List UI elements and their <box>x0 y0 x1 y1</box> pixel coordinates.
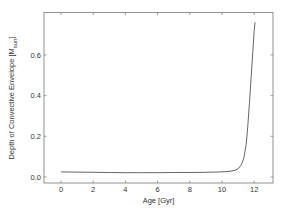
x-tick-label: 2 <box>91 185 95 194</box>
y-axis-label: Depth of Convective Envelope [Msun] <box>7 36 18 159</box>
x-tick-label: 0 <box>59 185 63 194</box>
y-tick-label: 0.4 <box>31 91 41 100</box>
x-axis-ticks: 024681012 <box>59 13 258 195</box>
x-tick-label: 10 <box>218 185 226 194</box>
y-tick-label: 0.0 <box>31 173 41 182</box>
x-axis-label: Age [Gyr] <box>143 196 175 205</box>
y-tick-label: 0.6 <box>31 51 41 60</box>
chart: 024681012 0.00.20.40.6 Age [Gyr] Depth o… <box>0 0 286 213</box>
x-tick-label: 12 <box>250 185 258 194</box>
y-tick-label: 0.2 <box>31 132 41 141</box>
x-tick-label: 4 <box>123 185 127 194</box>
x-tick-label: 8 <box>188 185 192 194</box>
plot-frame <box>44 13 273 184</box>
x-tick-label: 6 <box>156 185 160 194</box>
y-axis-ticks: 0.00.20.40.6 <box>31 51 273 182</box>
data-line <box>61 22 255 172</box>
